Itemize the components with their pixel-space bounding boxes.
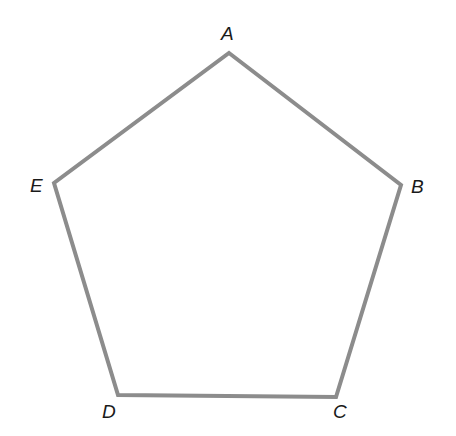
- vertex-label-e: E: [30, 175, 43, 196]
- pentagon-diagram: A B C D E: [0, 0, 456, 436]
- vertex-label-d: D: [102, 401, 116, 422]
- vertex-label-a: A: [220, 23, 234, 44]
- vertex-label-b: B: [411, 176, 424, 197]
- vertex-label-c: C: [333, 401, 347, 422]
- pentagon-shape: [54, 53, 401, 397]
